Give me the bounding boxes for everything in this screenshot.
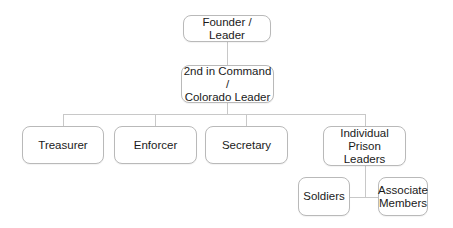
node-label: Secretary <box>222 139 271 152</box>
node-secretary: Secretary <box>205 126 288 164</box>
node-associate-members: Associate Members <box>378 177 428 216</box>
node-label: Enforcer <box>134 139 177 152</box>
node-treasurer: Treasurer <box>22 126 104 164</box>
node-founder-leader: Founder / Leader <box>183 15 271 42</box>
node-enforcer: Enforcer <box>114 126 197 164</box>
node-label: Founder / Leader <box>184 16 270 42</box>
node-second-in-command: 2nd in Command / Colorado Leader <box>181 65 274 103</box>
node-individual-prison-leaders: Individual Prison Leaders <box>323 126 406 166</box>
node-label: 2nd in Command / Colorado Leader <box>182 65 273 104</box>
node-label: Soldiers <box>303 190 345 203</box>
node-label: Individual Prison Leaders <box>324 127 405 166</box>
node-soldiers: Soldiers <box>298 177 350 216</box>
node-label: Associate Members <box>378 184 428 210</box>
node-label: Treasurer <box>38 139 87 152</box>
